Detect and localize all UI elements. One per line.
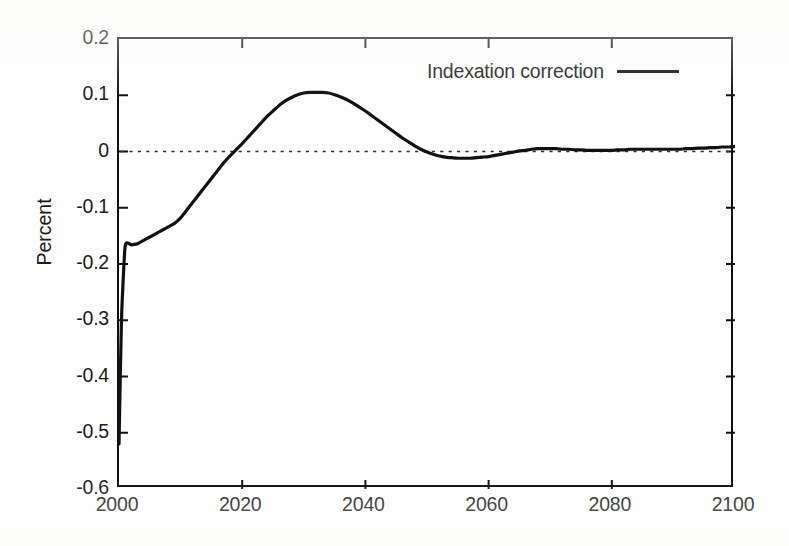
plot-area bbox=[117, 37, 733, 487]
axis-ticks bbox=[119, 39, 735, 489]
legend: Indexation correction bbox=[427, 58, 679, 84]
series-indexation-correction bbox=[119, 92, 735, 444]
y-tick-label: -0.4 bbox=[55, 365, 109, 385]
x-axis-tick-labels: 2000 2020 2040 2060 2080 2100 bbox=[0, 493, 789, 527]
x-tick-label: 2000 bbox=[72, 493, 162, 515]
legend-item-label: Indexation correction bbox=[427, 60, 604, 82]
x-tick-label: 2020 bbox=[195, 493, 285, 515]
x-tick-label: 2040 bbox=[318, 493, 408, 515]
y-tick-label: 0.1 bbox=[55, 83, 109, 103]
y-tick-label: -0.1 bbox=[55, 196, 109, 216]
y-tick-label: -0.2 bbox=[55, 252, 109, 272]
y-tick-label: -0.3 bbox=[55, 308, 109, 328]
x-tick-label: 2060 bbox=[442, 493, 532, 515]
legend-line-swatch bbox=[617, 70, 679, 73]
x-tick-label: 2080 bbox=[565, 493, 655, 515]
y-tick-label: 0 bbox=[55, 140, 109, 160]
chart-figure: Percent 0.2 0.1 0 -0.1 -0.2 -0.3 -0.4 -0… bbox=[0, 0, 789, 546]
y-tick-label: -0.5 bbox=[55, 421, 109, 441]
y-axis-tick-labels: 0.2 0.1 0 -0.1 -0.2 -0.3 -0.4 -0.5 -0.6 bbox=[49, 0, 109, 546]
x-tick-label: 2100 bbox=[688, 493, 778, 515]
plot-canvas bbox=[119, 39, 735, 489]
y-tick-label: 0.2 bbox=[55, 27, 109, 47]
